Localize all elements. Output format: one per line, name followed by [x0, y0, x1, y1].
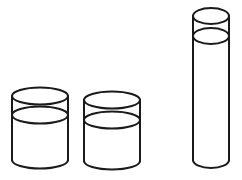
cylinder-figure: [0, 0, 242, 180]
figure-background: [0, 0, 242, 180]
cylinder-diagram-svg: [0, 0, 242, 180]
